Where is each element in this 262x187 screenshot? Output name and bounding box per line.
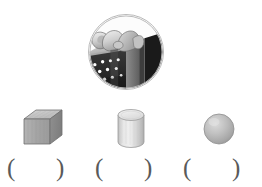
worksheet-page: ( ) ( ) ( )	[0, 0, 262, 187]
shape-option-sphere[interactable]	[176, 104, 262, 154]
paren-right-icon: )	[144, 154, 152, 182]
gift-box-illustration	[89, 15, 163, 89]
cylinder-icon	[108, 104, 154, 152]
sphere-icon	[196, 104, 242, 152]
answer-blank-sphere[interactable]: ( )	[176, 154, 262, 184]
cube-icon	[20, 104, 66, 152]
paren-left-icon: (	[7, 154, 15, 182]
answer-blank-cube[interactable]: ( )	[0, 154, 86, 184]
answers-row: ( ) ( ) ( )	[0, 154, 262, 186]
shapes-row	[0, 104, 262, 154]
shape-option-cube[interactable]	[0, 104, 86, 154]
gift-box-photo	[88, 14, 164, 90]
answer-blank-cylinder[interactable]: ( )	[88, 154, 174, 184]
paren-right-icon: )	[56, 154, 64, 182]
shape-option-cylinder[interactable]	[88, 104, 174, 154]
paren-left-icon: (	[95, 154, 103, 182]
paren-right-icon: )	[232, 154, 240, 182]
paren-left-icon: (	[183, 154, 191, 182]
